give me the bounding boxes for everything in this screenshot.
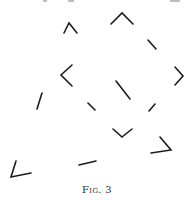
top-edge-residue — [170, 0, 180, 2]
angle-right-mark — [175, 67, 183, 85]
dash-slash-left-mark — [37, 93, 42, 109]
top-edge-residue — [43, 0, 47, 2]
figure-caption: Fig. 3 — [0, 184, 194, 195]
dash-diagonal-upper-right-mark — [148, 40, 156, 49]
dash-lower-center-mark — [79, 161, 96, 165]
figure-3: Fig. 3 — [0, 0, 194, 200]
top-edge-residue — [68, 0, 74, 2]
angle-down-mark — [113, 129, 132, 137]
angle-marks-drawing — [0, 0, 194, 200]
marks-group — [11, 13, 183, 177]
angle-lower-right-mark — [151, 137, 171, 153]
angle-left-mark — [61, 65, 72, 86]
dash-short-center-right-mark — [149, 104, 155, 111]
angle-lower-left-mark — [11, 161, 31, 177]
dash-diagonal-center-mark — [116, 81, 130, 99]
dash-short-center-left-mark — [88, 103, 95, 110]
caret-up-small-mark — [64, 23, 77, 33]
caret-up-large-mark — [111, 13, 133, 24]
